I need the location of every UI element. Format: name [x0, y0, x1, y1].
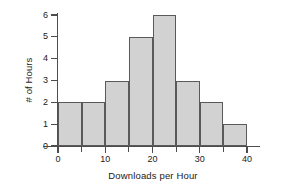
y-tick-mark [51, 14, 57, 15]
x-tick-mark [246, 147, 247, 153]
histogram-bar [200, 102, 224, 146]
y-tick-label: 3 [32, 76, 48, 85]
y-tick-mark [51, 124, 57, 125]
x-tick-mark-minor [81, 147, 82, 152]
y-tick-label: 5 [32, 32, 48, 41]
y-tick-label: 1 [32, 120, 48, 129]
x-tick-mark [152, 147, 153, 153]
x-tick-mark [57, 147, 58, 153]
x-tick-label: 10 [94, 154, 116, 164]
y-tick-mark [51, 80, 57, 81]
x-tick-label: 40 [236, 154, 258, 164]
x-axis-title: Downloads per Hour [58, 170, 248, 181]
y-tick-label: 4 [32, 54, 48, 63]
x-tick-mark-minor [223, 147, 224, 152]
histogram-bar [129, 37, 153, 146]
x-tick-label: 30 [189, 154, 211, 164]
histogram-bar [223, 124, 247, 146]
histogram-bar [105, 81, 129, 147]
y-tick-mark [51, 58, 57, 59]
histogram-bar [176, 81, 200, 147]
y-tick-mark [51, 36, 57, 37]
x-tick-mark-minor [176, 147, 177, 152]
y-tick-mark [51, 102, 57, 103]
x-tick-label: 20 [142, 154, 164, 164]
x-tick-label: 0 [47, 154, 69, 164]
histogram-bar [58, 102, 82, 146]
y-tick-label: 2 [32, 98, 48, 107]
x-tick-mark [105, 147, 106, 153]
histogram-figure: # of Hours 0123456 010203040 Downloads p… [0, 0, 281, 194]
histogram-bar [82, 102, 106, 146]
y-tick-label: 6 [32, 11, 48, 20]
plot-area [58, 15, 247, 146]
x-tick-mark [199, 147, 200, 153]
x-tick-mark-minor [128, 147, 129, 152]
histogram-bar [153, 15, 177, 146]
